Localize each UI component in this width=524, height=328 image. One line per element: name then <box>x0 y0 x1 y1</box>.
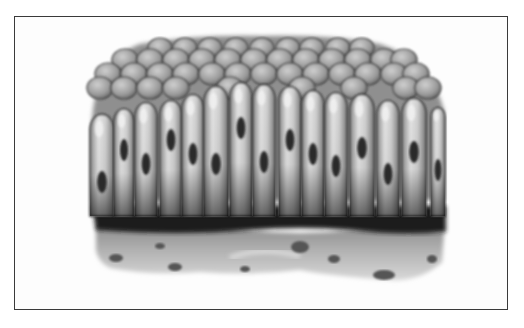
columnar-cell <box>204 86 228 216</box>
columnar-cell <box>160 101 182 216</box>
cell-highlight <box>257 90 265 105</box>
connective-nucleus <box>427 255 437 263</box>
connective-nucleus <box>240 266 250 272</box>
connective-nucleus <box>109 254 123 262</box>
cell-highlight <box>118 114 125 128</box>
cell-highlight <box>381 106 389 121</box>
connective-nucleus <box>291 241 309 253</box>
apical-cell <box>415 77 441 99</box>
cell-nucleus <box>384 163 393 185</box>
cell-nucleus <box>409 141 419 163</box>
columnar-cell <box>377 101 399 216</box>
cell-nucleus <box>309 143 318 165</box>
columnar-cell <box>114 109 134 216</box>
cell-highlight <box>355 100 364 117</box>
apical-cell <box>251 63 277 85</box>
connective-nucleus <box>168 263 182 271</box>
cell-highlight <box>95 120 104 137</box>
cell-highlight <box>209 92 218 109</box>
cell-highlight <box>186 100 194 115</box>
cell-nucleus <box>260 151 269 173</box>
columnar-cell <box>253 85 275 216</box>
columnar-cell <box>350 94 374 216</box>
columnar-cell <box>135 103 157 216</box>
cell-nucleus <box>332 155 341 177</box>
columnar-cell <box>90 114 114 216</box>
columnar-cell <box>402 98 426 216</box>
columnar-cell <box>302 91 324 216</box>
apical-cell <box>137 77 163 99</box>
cell-nucleus <box>120 139 128 161</box>
connective-nucleus <box>328 255 340 263</box>
cell-highlight <box>306 96 314 111</box>
cell-nucleus <box>97 171 107 193</box>
connective-nucleus <box>373 270 395 280</box>
cell-nucleus <box>189 143 198 165</box>
cell-nucleus <box>286 129 295 151</box>
columnar-cell-layer <box>90 83 445 216</box>
cell-highlight <box>283 92 291 107</box>
cell-nucleus <box>142 153 151 175</box>
connective-nucleus <box>155 243 165 249</box>
apical-cell <box>111 77 137 99</box>
columnar-cell <box>279 87 301 216</box>
columnar-cell <box>182 95 204 216</box>
columnar-epithelium-illustration: Illustration of simple columnar epitheli… <box>0 0 524 328</box>
apical-cell <box>163 77 189 99</box>
columnar-cell <box>325 93 347 216</box>
cell-nucleus <box>435 159 442 181</box>
tissue-group <box>87 36 446 281</box>
cell-highlight <box>407 104 416 121</box>
apical-cell <box>87 77 113 99</box>
cell-nucleus <box>237 117 246 139</box>
cell-highlight <box>164 106 172 121</box>
columnar-cell <box>230 83 252 216</box>
cell-nucleus <box>357 137 367 159</box>
cell-highlight <box>234 88 242 103</box>
cell-nucleus <box>211 153 221 175</box>
cell-highlight <box>329 98 337 113</box>
cell-highlight <box>434 111 439 121</box>
columnar-cell <box>431 108 445 216</box>
cell-highlight <box>139 108 147 123</box>
cell-nucleus <box>167 129 176 151</box>
